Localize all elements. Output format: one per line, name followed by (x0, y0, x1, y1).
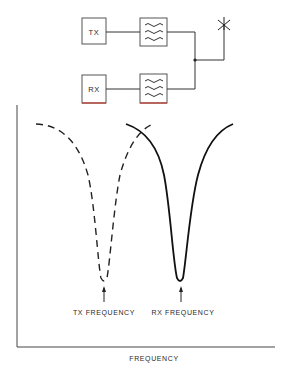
tx-response-curve (36, 124, 151, 281)
rx-block-label: RX (88, 85, 100, 94)
rx-frequency-label: RX FREQUENCY (152, 309, 215, 317)
response-graph: TX FREQUENCY RX FREQUENCY FREQUENCY (17, 105, 275, 363)
tx-frequency-marker (102, 286, 106, 302)
x-axis-label: FREQUENCY (129, 355, 178, 363)
tx-block-label: TX (89, 28, 100, 37)
duplexer-figure: TX RX TX FREQUENCY RX FREQUENCY FREQUENC… (0, 0, 291, 376)
rx-frequency-marker (179, 286, 183, 302)
tx-filter-block (140, 18, 167, 46)
antenna-icon (218, 17, 230, 30)
block-diagram (82, 17, 230, 103)
junction-dot (193, 58, 196, 61)
tx-frequency-label: TX FREQUENCY (73, 309, 135, 317)
rx-filter-block (140, 74, 167, 103)
rx-response-curve (126, 124, 233, 281)
